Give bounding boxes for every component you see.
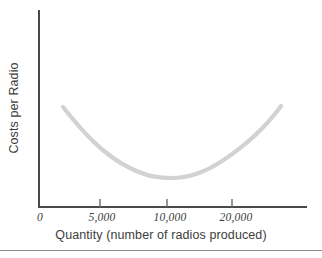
average-cost-curve <box>63 106 281 178</box>
x-tick-label-0: 0 <box>37 211 43 223</box>
bottom-divider <box>0 250 322 251</box>
x-tick-label-20000: 20,000 <box>220 211 253 223</box>
x-axis-title: Quantity (number of radios produced) <box>0 228 322 242</box>
x-tick-label-10000: 10,000 <box>154 211 187 223</box>
y-axis-title: Costs per Radio <box>7 62 21 153</box>
cost-curve-figure: 0 5,000 10,000 20,000 Quantity (number o… <box>0 0 322 258</box>
x-tick-label-5000: 5,000 <box>89 211 116 223</box>
